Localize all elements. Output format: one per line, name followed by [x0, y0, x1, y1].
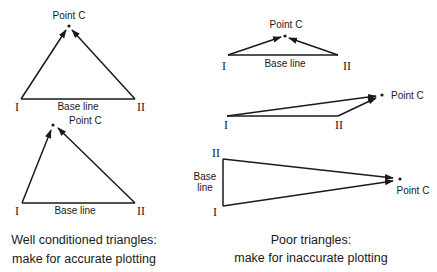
base-line-label: Base line [54, 205, 96, 216]
poor-caption-line2: make for inaccurate plotting [234, 251, 388, 265]
station-one-label: I [15, 100, 19, 114]
poor-triangle-1: Point C Base line I II [222, 19, 351, 73]
base-line-label: Base line [264, 58, 306, 69]
well-conditioned-triangle-1: Point C Base line I II [15, 10, 145, 114]
point-c-label: Point C [69, 115, 102, 126]
point-c-dot [51, 123, 54, 126]
station-two-label: II [335, 118, 343, 132]
poor-triangle-3: Point C Base line II I [194, 146, 430, 219]
station-one-label: I [213, 205, 217, 219]
station-two-label: II [343, 59, 351, 73]
ray-from-station-one [228, 37, 281, 55]
point-c-dot [283, 34, 286, 37]
station-one-label: I [222, 59, 226, 73]
poor-triangle-2: Point C I II [224, 90, 424, 132]
poor-caption-line1: Poor triangles: [271, 233, 352, 247]
line-word-label: line [197, 182, 213, 193]
station-two-label: II [212, 146, 220, 160]
station-two-label: II [137, 204, 145, 218]
station-two-label: II [137, 100, 145, 114]
ray-from-station-one [223, 181, 393, 206]
base-line-label: Base line [57, 101, 99, 112]
ray-from-station-one [22, 130, 51, 203]
station-one-label: I [15, 204, 19, 218]
point-c-label: Point C [270, 19, 303, 30]
point-c-dot [380, 93, 383, 96]
ray-from-station-two [58, 128, 135, 203]
point-c-dot [67, 24, 70, 27]
point-c-label: Point C [391, 90, 424, 101]
well-conditioned-caption-line2: make for accurate plotting [12, 252, 156, 266]
triangulation-diagram: Point C Base line I II Point C Base line… [0, 0, 437, 272]
ray-from-station-two [72, 30, 135, 99]
point-c-label: Point C [397, 185, 430, 196]
base-word-label: Base [194, 171, 217, 182]
well-conditioned-caption-line1: Well conditioned triangles: [11, 233, 157, 247]
point-c-dot [398, 177, 401, 180]
ray-from-station-one [227, 96, 376, 116]
station-one-label: I [224, 118, 228, 132]
ray-from-station-one [21, 30, 66, 99]
point-c-label: Point C [53, 10, 86, 21]
well-conditioned-triangle-2: Point C Base line I II [15, 115, 145, 218]
ray-from-station-two [289, 38, 338, 55]
ray-from-station-two [223, 159, 393, 178]
